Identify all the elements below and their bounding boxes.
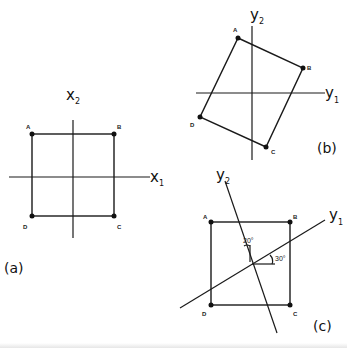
vertex-c-dot [264, 145, 269, 150]
vertex-a-dot [209, 220, 214, 225]
vertex-b-label: B [117, 124, 122, 130]
vertex-a-label: A [203, 214, 208, 220]
y2-axis-label: y [250, 6, 259, 24]
vertex-d-label: D [23, 224, 28, 230]
vertex-b-dot [288, 220, 293, 225]
x2-axis-subscript: 2 [75, 97, 80, 106]
y1-axis-subscript: 1 [334, 96, 339, 105]
x2-axis-label: x [66, 86, 75, 104]
panel-c-label: (c) [313, 318, 332, 334]
vertex-c-label: C [271, 149, 276, 155]
y2-axis-subscript: 2 [259, 17, 264, 26]
vertex-d-label: D [202, 311, 207, 317]
vertex-b-label: B [293, 214, 298, 220]
y2-axis-label: y [216, 166, 225, 184]
x1-axis-label: x [150, 168, 159, 186]
vertex-a-label: A [26, 124, 31, 130]
vertex-c-label: C [293, 311, 298, 317]
y2-axis [225, 181, 277, 333]
figure-canvas: A B C D x 1 x 2 (a) A B C D y 1 y 2 (b) [0, 0, 347, 348]
panel-a: A B C D x 1 x 2 (a) [4, 86, 164, 276]
vertex-b-label: B [307, 65, 312, 71]
panel-b: A B C D y 1 y 2 (b) [190, 6, 339, 160]
angle-label-30: 30° [275, 255, 286, 262]
cut-off-caption [0, 343, 347, 348]
vertex-a-label: A [233, 27, 238, 33]
y1-axis-label: y [325, 84, 334, 102]
vertex-a-dot [236, 36, 241, 41]
vertex-d-dot [30, 214, 35, 219]
vertex-a-dot [30, 132, 35, 137]
y1-axis-label: y [329, 206, 338, 224]
vertex-b-dot [301, 66, 306, 71]
vertex-d-label: D [190, 122, 195, 128]
angle-arc-30 [270, 255, 273, 264]
vertex-c-label: C [117, 224, 122, 230]
square-abcd [211, 222, 290, 305]
vertex-b-dot [112, 132, 117, 137]
vertex-c-dot [288, 303, 293, 308]
panel-c: 20° 30° A B C D y 1 y 2 (c) [180, 166, 343, 334]
vertex-d-dot [198, 115, 203, 120]
panel-b-label: (b) [317, 140, 337, 156]
y2-axis-subscript: 2 [225, 177, 230, 186]
y1-axis-subscript: 1 [338, 218, 343, 227]
vertex-d-dot [209, 303, 214, 308]
x1-axis-subscript: 1 [159, 179, 164, 188]
angle-label-20: 20° [243, 237, 254, 244]
panel-a-label: (a) [4, 260, 24, 276]
vertex-c-dot [112, 214, 117, 219]
